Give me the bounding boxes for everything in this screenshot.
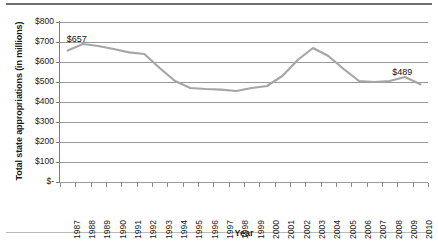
- x-axis-tick-label: 1997: [225, 189, 235, 201]
- x-axis-tick-mark: [244, 183, 245, 187]
- x-axis-tick-label: 2009: [409, 189, 419, 201]
- x-axis-tick-label: 1987: [72, 189, 82, 201]
- x-axis-tick-label: 2004: [332, 189, 342, 201]
- x-axis-tick-label: 2006: [363, 189, 373, 201]
- x-axis-tick-mark: [382, 183, 383, 187]
- y-axis-tick-label: $-: [20, 176, 54, 186]
- y-axis-tick-label: $800: [20, 16, 54, 26]
- x-axis-tick-label: 2001: [286, 189, 296, 201]
- top-divider: [6, 3, 432, 5]
- y-axis-tick-label: $600: [20, 56, 54, 66]
- x-axis-tick-label: 1989: [102, 189, 112, 201]
- x-axis-tick-label: 1990: [118, 189, 128, 201]
- x-axis-tick-mark: [167, 183, 168, 187]
- x-axis-tick-label: 1999: [256, 189, 266, 201]
- x-axis-tick-mark: [397, 183, 398, 187]
- x-axis-tick-mark: [106, 183, 107, 187]
- x-axis-tick-mark: [60, 183, 61, 187]
- data-label: $489: [392, 67, 412, 77]
- x-axis-tick-mark: [290, 183, 291, 187]
- x-axis-tick-label: 1995: [194, 189, 204, 201]
- line-series: [60, 22, 428, 182]
- x-axis-tick-label: 1998: [240, 189, 250, 201]
- y-axis-tick-label: $500: [20, 76, 54, 86]
- x-axis-tick-label: 1992: [148, 189, 158, 201]
- x-axis-tick-label: 2007: [378, 189, 388, 201]
- x-axis-tick-mark: [229, 183, 230, 187]
- x-axis-tick-label: 1988: [87, 189, 97, 201]
- x-axis-tick-mark: [367, 183, 368, 187]
- chart-figure: Total state appropriations (in millions)…: [0, 0, 438, 245]
- x-axis-tick-mark: [275, 183, 276, 187]
- x-axis-tick-label: 1996: [210, 189, 220, 201]
- x-axis-tick-label: 1991: [133, 189, 143, 201]
- x-axis-tick-mark: [336, 183, 337, 187]
- y-axis-tick-label: $400: [20, 96, 54, 106]
- x-axis-tick-mark: [213, 183, 214, 187]
- x-axis-tick-mark: [183, 183, 184, 187]
- x-axis-tick-mark: [305, 183, 306, 187]
- x-axis-tick-label: 2010: [424, 189, 434, 201]
- series-polyline: [68, 44, 421, 91]
- x-axis-tick-mark: [198, 183, 199, 187]
- x-axis-tick-mark: [428, 183, 429, 187]
- x-axis-tick-label: 2000: [271, 189, 281, 201]
- x-axis-tick-mark: [75, 183, 76, 187]
- x-axis-tick-label: 2003: [317, 189, 327, 201]
- x-axis-tick-mark: [152, 183, 153, 187]
- x-axis-tick-mark: [121, 183, 122, 187]
- plot-area: [60, 22, 428, 182]
- y-axis-tick-label: $300: [20, 116, 54, 126]
- x-axis-tick-label: 1994: [179, 189, 189, 201]
- x-axis-tick-mark: [321, 183, 322, 187]
- x-axis-tick-label: 2002: [302, 189, 312, 201]
- x-axis-tick-mark: [91, 183, 92, 187]
- data-label: $657: [67, 34, 87, 44]
- x-axis-tick-mark: [413, 183, 414, 187]
- y-axis-tick-label: $100: [20, 156, 54, 166]
- x-axis-tick-mark: [137, 183, 138, 187]
- y-axis-tick-label: $200: [20, 136, 54, 146]
- x-axis-tick-mark: [259, 183, 260, 187]
- y-axis-tick-label: $700: [20, 36, 54, 46]
- x-axis-tick-mark: [351, 183, 352, 187]
- x-axis-tick-label: 1993: [164, 189, 174, 201]
- x-axis-tick-label: 2008: [394, 189, 404, 201]
- x-axis-tick-label: 2005: [348, 189, 358, 201]
